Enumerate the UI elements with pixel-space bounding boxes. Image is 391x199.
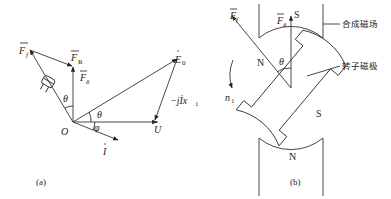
svg-text:U: U	[154, 124, 162, 135]
rotor-diagram-b: F f F δ S N N S θ n 1 合成磁场 转子磁极 (b)	[225, 4, 378, 196]
vector-FR	[30, 50, 72, 66]
rotor-pole	[236, 25, 350, 146]
stator-pole-bottom	[259, 138, 323, 196]
angle-arc-theta-b	[277, 68, 291, 72]
label-I: I	[102, 143, 107, 157]
label-theta1: θ	[63, 93, 68, 104]
phasor-diagram-a: F f F R F δ E 0 −jİx 1 U I O	[18, 43, 199, 187]
angle-arc-theta1	[65, 106, 73, 108]
label-theta2: θ	[97, 109, 102, 120]
svg-text:F: F	[18, 45, 26, 56]
svg-text:f: f	[26, 51, 29, 59]
svg-text:δ: δ	[86, 78, 90, 86]
label-phi: φ	[94, 122, 100, 133]
caption-b: (b)	[290, 177, 301, 187]
svg-text:−jİx: −jİx	[170, 95, 188, 106]
label-theta-b: θ	[279, 56, 284, 67]
angle-arc-theta2	[89, 112, 91, 122]
label-Ff: F f	[18, 43, 29, 59]
svg-text:E: E	[174, 54, 181, 65]
svg-text:R: R	[78, 58, 83, 66]
svg-text:1: 1	[195, 100, 199, 108]
svg-text:F: F	[70, 52, 78, 63]
vector-Ff	[30, 50, 73, 122]
label-Fdelta: F δ	[79, 71, 90, 86]
rotation-arrow-n1	[230, 60, 233, 88]
label-U: U	[154, 121, 162, 135]
svg-text:0: 0	[182, 59, 186, 67]
svg-text:f: f	[236, 16, 239, 24]
label-combined-field: 合成磁场	[342, 19, 378, 29]
label-n1: n 1	[225, 92, 235, 105]
svg-text:1: 1	[231, 97, 235, 105]
svg-text:δ: δ	[283, 21, 287, 29]
label-S-rotor: S	[316, 108, 322, 119]
vector-E0	[73, 59, 177, 122]
leader-rotor-pole	[307, 66, 340, 76]
label-jIx: −jİx 1	[170, 95, 199, 108]
label-N-bottom: N	[289, 151, 296, 162]
vector-jIx	[155, 59, 177, 120]
label-Fdelta-b: F δ	[276, 14, 287, 29]
caption-a: (a)	[36, 177, 46, 187]
label-E0: E 0	[174, 50, 186, 67]
label-Ff-b: F f	[229, 9, 239, 24]
svg-text:I: I	[102, 146, 107, 157]
label-rotor-pole: 转子磁极	[342, 61, 378, 71]
label-N-rotor: N	[257, 57, 264, 68]
label-FR: F R	[70, 51, 83, 66]
label-O: O	[61, 126, 68, 137]
diagram-canvas: F f F R F δ E 0 −jİx 1 U I O	[0, 0, 391, 199]
label-S-top: S	[294, 9, 300, 20]
svg-text:n: n	[225, 92, 230, 103]
